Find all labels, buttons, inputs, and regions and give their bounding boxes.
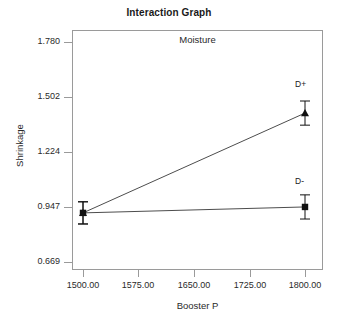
y-axis-tick-label: 1.780 — [0, 36, 60, 46]
plot-area — [72, 30, 323, 270]
chart-subtitle: Moisture — [72, 34, 323, 45]
x-axis-tick-mark — [194, 270, 195, 277]
x-axis-tick-mark — [138, 270, 139, 277]
y-axis-tick-mark — [64, 262, 72, 263]
x-axis-tick-label: 1800.00 — [275, 280, 335, 290]
y-axis-tick-label: 0.947 — [0, 201, 60, 211]
x-axis-tick-mark — [305, 270, 306, 277]
y-axis-tick-label: 1.502 — [0, 91, 60, 101]
x-axis-tick-label: 1500.00 — [53, 280, 113, 290]
series-label-d-plus: D+ — [295, 79, 306, 89]
series-label-d-minus: D- — [295, 176, 304, 186]
x-axis-label: Booster P — [72, 300, 323, 311]
x-axis-tick-mark — [250, 270, 251, 277]
x-axis-tick-label: 1650.00 — [164, 280, 224, 290]
y-axis-tick-label: 0.669 — [0, 256, 60, 266]
y-axis-tick-mark — [64, 97, 72, 98]
x-axis-tick-label: 1575.00 — [108, 280, 168, 290]
y-axis-tick-mark — [64, 207, 72, 208]
chart-title: Interaction Graph — [0, 7, 338, 18]
x-axis-tick-mark — [83, 270, 84, 277]
interaction-graph-figure: Interaction Graph Moisture Shrinkage Boo… — [0, 0, 338, 322]
y-axis-tick-mark — [64, 42, 72, 43]
y-axis-tick-mark — [64, 152, 72, 153]
x-axis-tick-label: 1725.00 — [220, 280, 280, 290]
y-axis-tick-label: 1.224 — [0, 146, 60, 156]
